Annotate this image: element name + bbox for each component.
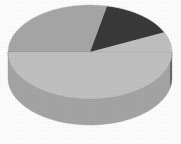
pie-chart-figure: [0, 0, 181, 144]
pie-top-face: [8, 5, 172, 99]
pie-slice-series-2: [8, 5, 107, 52]
pie-chart-canvas: [0, 0, 181, 144]
